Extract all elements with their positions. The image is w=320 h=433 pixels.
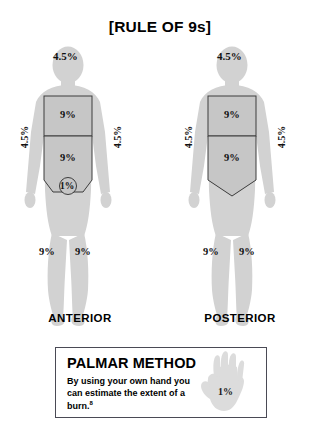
palmar-method-description: By using your own hand you can estimate …	[67, 376, 199, 413]
posterior-view-caption: POSTERIOR	[160, 312, 320, 324]
anterior-chest-percent: 9%	[60, 110, 76, 121]
right-hand-shape	[265, 192, 276, 208]
anterior-left-leg-percent: 9%	[75, 247, 91, 258]
ring-finger	[229, 353, 236, 377]
posterior-left-arm-percent: 4.5%	[184, 126, 194, 149]
middle-finger	[221, 351, 228, 375]
anterior-abdomen-percent: 9%	[60, 153, 76, 164]
anterior-left-arm-percent: 4.5%	[113, 126, 123, 149]
palmar-method-box: PALMAR METHOD By using your own hand you…	[55, 347, 267, 418]
palmar-hand-percent: 1%	[218, 386, 233, 397]
palmar-method-title: PALMAR METHOD	[67, 355, 196, 371]
anterior-body-diagram	[0, 40, 160, 330]
anterior-head-percent: 4.5%	[53, 51, 78, 62]
posterior-right-arm-percent: 4.5%	[277, 126, 287, 149]
anterior-figure-panel: 4.5% 4.5% 4.5% 9% 9% 1% 9% 9%	[0, 40, 160, 330]
palmar-description-text: By using your own hand you can estimate …	[67, 376, 190, 411]
left-hand-shape	[101, 192, 112, 208]
anterior-right-arm-percent: 4.5%	[20, 126, 30, 149]
posterior-left-leg-percent: 9%	[203, 247, 219, 258]
posterior-upper-back-percent: 9%	[224, 110, 240, 121]
posterior-head-percent: 4.5%	[217, 51, 242, 62]
palmar-footnote-marker: 8	[90, 400, 93, 406]
posterior-lower-back-percent: 9%	[224, 153, 240, 164]
right-hand-shape	[25, 192, 36, 208]
left-hand-shape	[189, 192, 200, 208]
posterior-figure-panel: 4.5% 4.5% 4.5% 9% 9% 9% 9%	[160, 40, 320, 330]
anterior-view-caption: ANTERIOR	[0, 312, 160, 324]
anterior-genitalia-percent: 1%	[60, 182, 74, 192]
anterior-right-leg-percent: 9%	[39, 247, 55, 258]
posterior-body-diagram	[160, 40, 320, 330]
page-title: [RULE OF 9s]	[0, 18, 320, 36]
posterior-right-leg-percent: 9%	[239, 247, 255, 258]
open-hand-icon: 1%	[194, 349, 260, 417]
index-finger	[213, 355, 220, 377]
